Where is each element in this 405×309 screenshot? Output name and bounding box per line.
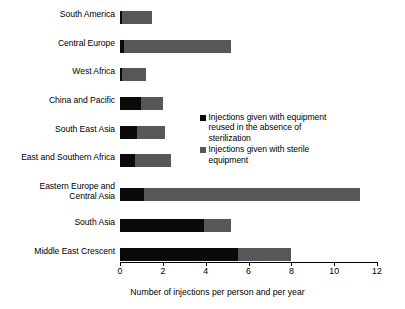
bar-segment-sterile: [238, 248, 292, 261]
category-label: Central Europe: [0, 38, 115, 48]
legend-swatch-gray-square-icon: [200, 147, 206, 153]
bar-segment-unsterile: [120, 248, 238, 261]
category-label: East and Southern Africa: [0, 152, 115, 162]
legend-item-sterile: Injections given with sterile equipment: [200, 144, 400, 165]
bar-segment-sterile: [204, 219, 232, 232]
bar-segment-sterile: [122, 11, 152, 24]
x-axis-tick-label: 6: [234, 266, 264, 277]
bar-segment-sterile: [144, 188, 360, 201]
bar-segment-sterile: [141, 97, 162, 110]
stacked-bar-chart: South AmericaCentral EuropeWest AfricaCh…: [0, 0, 405, 309]
legend-swatch-black-square-icon: [200, 115, 206, 121]
category-label: West Africa: [0, 66, 115, 76]
bar-segment-unsterile: [120, 154, 135, 167]
x-axis-tick-label: 2: [148, 266, 178, 277]
bar-segment-unsterile: [120, 126, 137, 139]
category-label: South East Asia: [0, 124, 115, 134]
legend-label-sterile: Injections given with sterile equipment: [209, 144, 329, 165]
x-axis-tick-label: 10: [319, 266, 349, 277]
chart-legend: Injections given with equipment reused i…: [200, 112, 400, 166]
x-axis-tick-label: 0: [105, 266, 135, 277]
x-axis-tick-label: 4: [191, 266, 221, 277]
category-label: South Asia: [0, 217, 115, 227]
bar-segment-unsterile: [120, 219, 204, 232]
bar-segment-sterile: [122, 68, 146, 81]
bar-segment-unsterile: [120, 97, 141, 110]
category-label: China and Pacific: [0, 95, 115, 105]
bar-segment-sterile: [124, 40, 231, 53]
category-label: Middle East Crescent: [0, 246, 115, 256]
category-label: South America: [0, 9, 115, 19]
x-axis-title: Number of injections per person and per …: [0, 287, 405, 297]
x-axis-tick-label: 8: [276, 266, 306, 277]
x-axis-tick-label: 12: [362, 266, 392, 277]
category-label: Eastern Europe and Central Asia: [0, 181, 115, 201]
legend-item-unsterile: Injections given with equipment reused i…: [200, 112, 400, 143]
legend-label-unsterile: Injections given with equipment reused i…: [209, 112, 329, 143]
bar-segment-unsterile: [120, 188, 144, 201]
bar-segment-sterile: [135, 154, 171, 167]
bar-segment-sterile: [137, 126, 165, 139]
